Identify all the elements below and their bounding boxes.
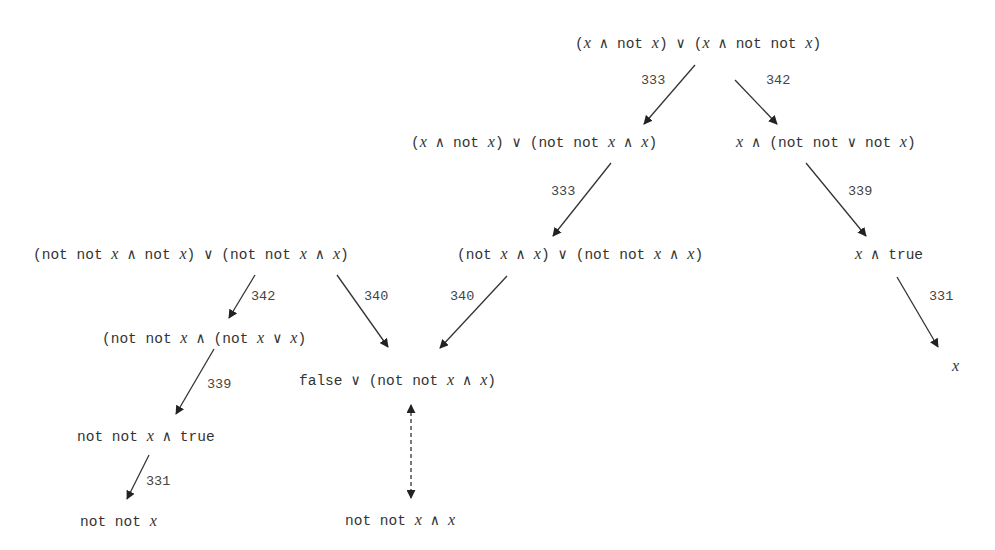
expression-node: (x ∧ not x) ∨ (x ∧ not not x) (575, 34, 821, 53)
expression-node: false ∨ (not not x ∧ x) (299, 371, 496, 390)
expression-node: not not x ∧ true (77, 427, 215, 446)
expression-node: (not not x ∧ not x) ∨ (not not x ∧ x) (33, 245, 349, 264)
expression-node: (not x ∧ x) ∨ (not not x ∧ x) (457, 245, 703, 264)
rewrite-arrow (337, 275, 388, 347)
rule-number-label: 339 (207, 377, 231, 393)
expression-node: x (952, 357, 959, 376)
expression-node: (not not x ∧ (not x ∨ x) (102, 329, 306, 348)
rewrite-arrow (897, 277, 938, 347)
rule-number-label: 333 (551, 184, 575, 200)
rule-number-label: 340 (450, 289, 474, 305)
expression-node: not not x ∧ x (345, 511, 455, 530)
edges-layer (0, 0, 995, 550)
rule-number-label: 331 (146, 474, 170, 490)
rule-number-label: 333 (641, 73, 665, 89)
rewrite-tree-diagram: (x ∧ not x) ∨ (x ∧ not not x)(x ∧ not x)… (0, 0, 995, 550)
expression-node: x ∧ true (855, 245, 923, 264)
rule-number-label: 331 (929, 289, 953, 305)
rule-number-label: 340 (364, 289, 388, 305)
rule-number-label: 342 (251, 289, 275, 305)
rewrite-arrow (440, 276, 507, 348)
rule-number-label: 342 (766, 73, 790, 89)
expression-node: not not x (80, 512, 157, 531)
expression-node: (x ∧ not x) ∨ (not not x ∧ x) (411, 133, 657, 152)
rule-number-label: 339 (848, 184, 872, 200)
expression-node: x ∧ (not not ∨ not x) (736, 133, 916, 152)
